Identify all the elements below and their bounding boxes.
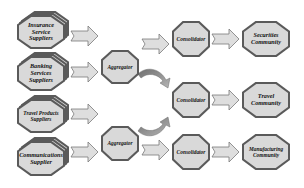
supplier-label: Insurance Service Suppliers xyxy=(28,22,54,43)
community-securities: Securities Community xyxy=(242,21,290,57)
community-label: Securities Community xyxy=(251,32,281,46)
consolidator-label: Consolidator xyxy=(177,97,206,103)
aggregator-top: Aggregator xyxy=(101,50,139,84)
arrow-supplier4-to-aggregator2 xyxy=(71,142,98,162)
supplier-travel-products: Travel Products Suppliers xyxy=(17,95,69,133)
supplier-insurance: Insurance Service Suppliers xyxy=(17,11,69,49)
supplier-label: Communications Supplier xyxy=(19,152,63,166)
supplier-banking: Banking Services Suppliers xyxy=(17,52,69,91)
supplier-label: Travel Products Suppliers xyxy=(23,110,58,122)
stack-layer-front: Travel Products Suppliers xyxy=(17,99,65,133)
stack-layer-front: Communications Supplier xyxy=(17,141,65,176)
consolidator-bottom: Consolidator xyxy=(172,134,210,170)
community-label: Manufacturing Community xyxy=(249,146,283,158)
arrow-aggregator1-to-consolidator1 xyxy=(142,34,169,54)
supplier-label: Banking Services Suppliers xyxy=(29,63,53,84)
consolidator-middle: Consolidator xyxy=(172,82,210,118)
aggregator-label: Aggregator xyxy=(107,140,132,146)
arrow-consolidator2-to-travel xyxy=(212,90,239,110)
arrow-aggregator2-to-consolidator3 xyxy=(142,140,169,160)
arrow-supplier2-to-aggregator1 xyxy=(71,62,98,82)
arrow-supplier1-to-aggregator1 xyxy=(71,26,98,46)
aggregator-bottom: Aggregator xyxy=(101,126,139,161)
arrow-supplier3-to-aggregator2 xyxy=(71,104,98,124)
curved-arrow-aggregator1-to-consolidator2 xyxy=(138,69,170,88)
consolidator-label: Consolidator xyxy=(177,36,206,42)
stack-layer-front: Insurance Service Suppliers xyxy=(17,15,65,49)
community-label: Travel Community xyxy=(251,93,281,107)
stack-layer-front: Banking Services Suppliers xyxy=(17,56,65,91)
arrow-consolidator1-to-securities xyxy=(212,29,239,49)
curved-arrow-aggregator2-to-consolidator2 xyxy=(138,117,170,136)
arrow-consolidator3-to-manufacturing xyxy=(212,142,239,162)
aggregator-label: Aggregator xyxy=(107,64,132,70)
consolidator-label: Consolidator xyxy=(177,149,206,155)
community-travel: Travel Community xyxy=(242,82,290,118)
community-manufacturing: Manufacturing Community xyxy=(242,134,290,170)
consolidator-top: Consolidator xyxy=(172,21,210,57)
supplier-communications: Communications Supplier xyxy=(17,137,69,176)
